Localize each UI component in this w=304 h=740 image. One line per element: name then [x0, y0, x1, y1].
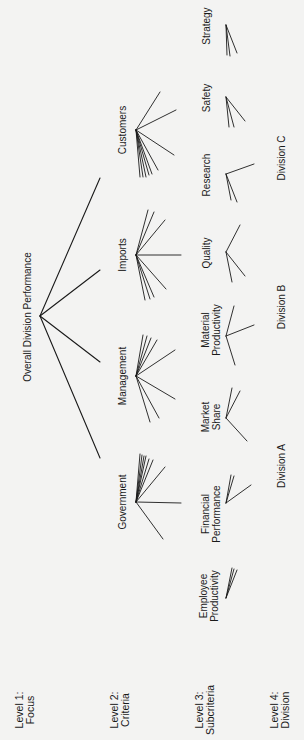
- edge-market-share-2: [226, 418, 247, 441]
- level-label-1: Level 1:Focus: [13, 692, 36, 729]
- subcriterion-label-quality: Quality: [201, 237, 212, 268]
- criterion-label-government: Government: [117, 474, 128, 529]
- subcriterion-label-market-share: MarketShare: [200, 401, 222, 432]
- division-label-c-line: Division C: [276, 135, 287, 180]
- edge-research-1: [226, 174, 231, 200]
- level-label-3-line: Subcriteria: [204, 685, 216, 735]
- edge-material-productivity-2: [226, 336, 235, 365]
- criterion-label-imports-line: Imports: [117, 238, 128, 271]
- edge-market-share-1: [226, 391, 240, 418]
- subcriterion-label-strategy: Strategy: [201, 7, 212, 44]
- edge-focus-to-government: [40, 316, 100, 458]
- edge-management-fan-2: [136, 338, 151, 376]
- subcriterion-label-financial-performance-line: Financial: [200, 494, 211, 534]
- edge-research-0: [226, 164, 254, 174]
- edge-focus-to-management: [40, 316, 100, 362]
- subcriterion-label-financial-performance: FinancialPerformance: [200, 485, 222, 543]
- edge-employee-productivity-1: [226, 569, 234, 598]
- edge-imports-fan-6: [136, 255, 150, 299]
- subcriterion-label-financial-performance-line: Performance: [211, 485, 222, 543]
- focus-label: Overall Division Performance: [22, 252, 33, 382]
- hierarchy-diagram: Level 1:FocusLevel 2:CriteriaLevel 3:Sub…: [0, 0, 304, 740]
- edge-government-fan-6: [136, 467, 165, 502]
- edge-imports-fan-7: [136, 255, 145, 300]
- subcriterion-label-material-productivity-line: Material: [200, 312, 211, 348]
- diagram-labels: Level 1:FocusLevel 2:CriteriaLevel 3:Sub…: [13, 7, 291, 735]
- criterion-label-government-line: Government: [117, 474, 128, 529]
- edge-material-productivity-0: [226, 306, 234, 336]
- subcriterion-label-material-productivity-line: Productivity: [211, 304, 222, 356]
- level-label-1-line: Focus: [24, 696, 36, 725]
- subcriterion-label-employee-productivity-line: Productivity: [209, 570, 220, 622]
- edge-research-2: [226, 174, 237, 202]
- level-label-2-line: Criteria: [119, 693, 131, 727]
- edge-imports-fan-1: [136, 212, 154, 255]
- division-label-b: Division B: [276, 284, 287, 329]
- subcriterion-label-market-share-line: Share: [211, 403, 222, 430]
- edge-imports-fan-5: [136, 255, 154, 297]
- level-label-4-line: Division: [279, 691, 291, 728]
- edge-quality-0: [226, 225, 240, 252]
- edge-employee-productivity-2: [226, 570, 237, 598]
- division-label-c: Division C: [276, 135, 287, 180]
- criterion-label-imports: Imports: [117, 238, 128, 271]
- division-label-a: Division A: [276, 444, 287, 488]
- level-label-3: Level 3:Subcriteria: [193, 685, 216, 735]
- subcriterion-label-quality-line: Quality: [201, 237, 212, 268]
- edge-focus-to-imports: [40, 270, 100, 316]
- subcriterion-label-strategy-line: Strategy: [201, 7, 212, 44]
- edge-financial-performance-2: [226, 485, 251, 503]
- criterion-label-management: Management: [117, 347, 128, 406]
- subcriterion-label-employee-productivity: EmployeeProductivity: [198, 570, 220, 622]
- subcriterion-label-material-productivity: MaterialProductivity: [200, 304, 222, 356]
- edge-government-fan-8: [136, 502, 163, 539]
- level-label-2: Level 2:Criteria: [108, 692, 131, 729]
- criterion-label-management-line: Management: [117, 347, 128, 406]
- criterion-label-customers: Customers: [117, 106, 128, 154]
- edge-focus-to-customers: [40, 178, 100, 316]
- subcriterion-label-research: Research: [201, 154, 212, 197]
- subcriterion-label-employee-productivity-line: Employee: [198, 573, 209, 618]
- subcriterion-label-safety: Safety: [201, 84, 212, 112]
- diagram-edges: [40, 25, 254, 598]
- subcriterion-label-safety-line: Safety: [201, 84, 212, 112]
- criterion-label-customers-line: Customers: [117, 106, 128, 154]
- edge-market-share-0: [226, 388, 232, 418]
- focus-label-line: Overall Division Performance: [22, 252, 33, 382]
- division-label-b-line: Division B: [276, 284, 287, 329]
- subcriterion-label-market-share-line: Market: [200, 401, 211, 432]
- subcriterion-label-research-line: Research: [201, 154, 212, 197]
- level-label-4: Level 4:Division: [268, 691, 291, 728]
- edge-imports-fan-4: [136, 255, 166, 289]
- diagram-canvas: Level 1:FocusLevel 2:CriteriaLevel 3:Sub…: [0, 0, 304, 740]
- edge-material-productivity-1: [226, 325, 254, 336]
- edge-government-fan-7: [136, 502, 181, 503]
- division-label-a-line: Division A: [276, 444, 287, 488]
